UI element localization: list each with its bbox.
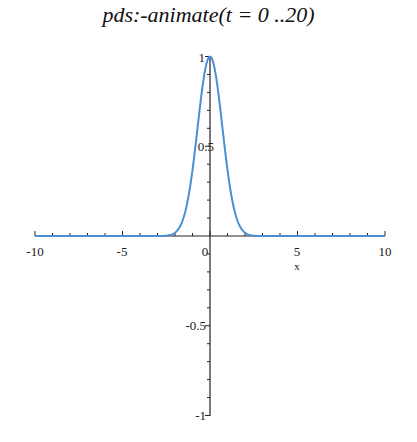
x-tick-label: -10	[26, 244, 43, 259]
x-tick-label: 10	[379, 244, 392, 259]
x-axis-label: x	[294, 260, 300, 272]
x-tick-label: -5	[117, 244, 128, 259]
y-tick-label: 1	[199, 50, 206, 65]
plot-area: -10 -5 0 5 10 x 1 0.5 -0.5 -1	[0, 0, 417, 442]
y-tick-label: 0.5	[198, 139, 214, 154]
y-tick-label: -1	[195, 408, 206, 423]
y-tick-label: -0.5	[185, 318, 206, 333]
x-tick-label: 0	[202, 244, 209, 259]
x-tick-label: 5	[294, 244, 301, 259]
